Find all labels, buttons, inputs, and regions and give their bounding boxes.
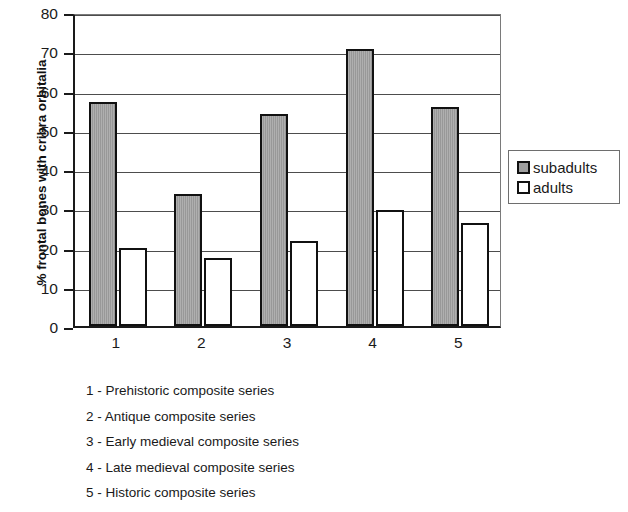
legend-item-subadults: subadults — [517, 157, 613, 177]
caption-line: 2 - Antique composite series — [86, 404, 546, 430]
legend-item-adults: adults — [517, 177, 613, 197]
legend-swatch-adults-icon — [517, 181, 530, 194]
legend-label-subadults: subadults — [533, 160, 597, 175]
bar-subadults-2 — [174, 194, 202, 326]
gridline — [75, 54, 500, 55]
y-axis-tick-label: 80 — [6, 6, 58, 21]
y-axis-tick-label: 30 — [6, 202, 58, 217]
y-axis-tick-mark — [64, 289, 73, 291]
x-axis-tick-label: 3 — [267, 334, 307, 352]
gridline — [75, 15, 500, 16]
bar-subadults-1 — [89, 102, 117, 327]
y-axis-tick-mark — [64, 250, 73, 252]
caption-line: 4 - Late medieval composite series — [86, 455, 546, 481]
x-axis-tick-label: 1 — [96, 334, 136, 352]
legend-label-adults: adults — [533, 180, 573, 195]
y-axis-tick-mark — [64, 328, 73, 330]
y-axis-tick-label: 10 — [6, 281, 58, 296]
y-axis-tick-label: 0 — [6, 320, 58, 335]
bar-adults-4 — [376, 210, 404, 326]
bar-adults-1 — [119, 248, 147, 326]
x-axis-tick-label: 2 — [181, 334, 221, 352]
caption-line: 1 - Prehistoric composite series — [86, 378, 546, 404]
gridline — [75, 94, 500, 95]
chart-legend: subadults adults — [508, 150, 620, 204]
y-axis-tick-label: 40 — [6, 163, 58, 178]
y-axis-tick-mark — [64, 93, 73, 95]
bar-chart-figure: % frontal bones with cribra orbitalia 01… — [0, 0, 628, 512]
y-axis-tick-mark — [64, 132, 73, 134]
caption-line: 5 - Historic composite series — [86, 480, 546, 506]
x-axis-tick-label: 4 — [353, 334, 393, 352]
y-axis-tick-label: 20 — [6, 242, 58, 257]
bar-subadults-5 — [431, 107, 459, 326]
y-axis-tick-label: 50 — [6, 124, 58, 139]
bar-adults-2 — [204, 258, 232, 326]
caption-key: 1 - Prehistoric composite series 2 - Ant… — [86, 378, 546, 506]
x-axis-ticks: 12345 — [73, 334, 501, 360]
y-axis-tick-mark — [64, 171, 73, 173]
bar-adults-3 — [290, 241, 318, 326]
legend-swatch-subadults-icon — [517, 161, 530, 174]
y-axis-tick-mark — [64, 53, 73, 55]
bar-adults-5 — [461, 223, 489, 326]
plot-area — [73, 14, 501, 328]
x-axis-tick-label: 5 — [438, 334, 478, 352]
bar-subadults-3 — [260, 114, 288, 326]
bar-subadults-4 — [346, 49, 374, 326]
y-axis-tick-mark — [64, 14, 73, 16]
y-axis-tick-label: 70 — [6, 45, 58, 60]
y-axis-tick-mark — [64, 210, 73, 212]
caption-line: 3 - Early medieval composite series — [86, 429, 546, 455]
y-axis-tick-label: 60 — [6, 85, 58, 100]
